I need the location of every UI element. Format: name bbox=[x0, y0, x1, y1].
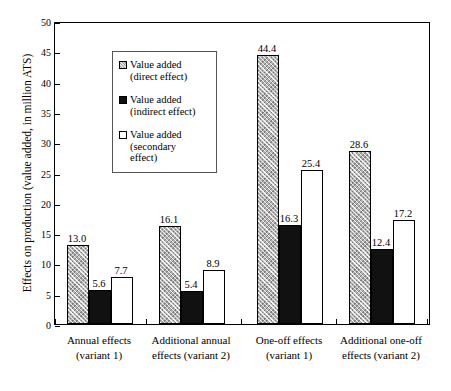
x-tick-mark bbox=[336, 319, 337, 324]
x-tick-mark bbox=[55, 319, 56, 324]
y-tick-label: 30 bbox=[29, 140, 51, 148]
y-tick-label: 10 bbox=[29, 261, 51, 269]
plot-area: 05101520253035404550 Value added(direct … bbox=[54, 22, 430, 325]
x-category-label-line: Additional one-off bbox=[340, 333, 422, 348]
bar-value-label: 16.1 bbox=[160, 214, 178, 225]
x-category-label: One-off effects(variant 1) bbox=[256, 333, 322, 363]
y-tick-mark bbox=[55, 84, 60, 85]
legend-label-line: Value added bbox=[130, 129, 182, 141]
y-tick-mark bbox=[55, 326, 60, 327]
x-category-label: Additional annualeffects (variant 2) bbox=[151, 333, 230, 363]
bar-value-label: 8.9 bbox=[206, 258, 219, 269]
bar-value-label: 7.7 bbox=[114, 265, 127, 276]
y-tick-mark bbox=[55, 205, 60, 206]
x-category-label: Annual effects(variant 1) bbox=[67, 333, 131, 363]
y-tick-mark bbox=[55, 23, 60, 24]
legend-label-line: (indirect effect) bbox=[130, 106, 195, 118]
bar bbox=[257, 55, 279, 324]
bar bbox=[111, 277, 133, 324]
legend-label-line: Value added bbox=[130, 94, 195, 106]
bar-value-label: 5.6 bbox=[92, 278, 105, 289]
bar bbox=[203, 270, 225, 324]
x-category-label-line: effects (variant 2) bbox=[151, 348, 230, 363]
x-category-label-line: One-off effects bbox=[256, 333, 322, 348]
bar-value-label: 5.4 bbox=[184, 279, 197, 290]
bar bbox=[159, 226, 181, 324]
legend-item[interactable]: Value added(indirect effect) bbox=[119, 94, 210, 117]
y-tick-label: 5 bbox=[29, 292, 51, 300]
legend-swatch-secondary bbox=[119, 131, 127, 139]
y-tick-label: 20 bbox=[29, 201, 51, 209]
bar bbox=[67, 245, 89, 324]
legend-label-line: (direct effect) bbox=[130, 71, 187, 83]
y-tick-label: 40 bbox=[29, 80, 51, 88]
bar-value-label: 17.2 bbox=[394, 208, 412, 219]
bar-value-label: 13.0 bbox=[68, 233, 86, 244]
x-category-label-line: Annual effects bbox=[67, 333, 131, 348]
bar bbox=[349, 151, 371, 324]
y-tick-mark bbox=[55, 265, 60, 266]
y-tick-mark bbox=[55, 53, 60, 54]
bar bbox=[371, 249, 393, 324]
x-category-label-line: (variant 1) bbox=[256, 348, 322, 363]
x-category-label: Additional one-offeffects (variant 2) bbox=[340, 333, 422, 363]
legend-swatch-direct bbox=[119, 61, 127, 69]
y-tick-mark bbox=[55, 296, 60, 297]
bar bbox=[301, 170, 323, 324]
x-tick-mark bbox=[241, 319, 242, 324]
y-tick-mark bbox=[55, 235, 60, 236]
x-tick-mark bbox=[427, 319, 428, 324]
legend-item-label: Value added(direct effect) bbox=[130, 59, 187, 82]
y-tick-mark bbox=[55, 114, 60, 115]
y-tick-label: 45 bbox=[29, 49, 51, 57]
y-tick-label: 50 bbox=[29, 19, 51, 27]
legend-item[interactable]: Value added(secondaryeffect) bbox=[119, 129, 210, 164]
legend-swatch-indirect bbox=[119, 96, 127, 104]
bar bbox=[393, 220, 415, 324]
bar-value-label: 25.4 bbox=[302, 158, 320, 169]
bar bbox=[279, 225, 301, 324]
bar-value-label: 44.4 bbox=[258, 43, 276, 54]
bar bbox=[89, 290, 111, 324]
bar-chart: Effects on production (value added, in m… bbox=[0, 0, 451, 391]
legend-item-label: Value added(indirect effect) bbox=[130, 94, 195, 117]
bar-value-label: 12.4 bbox=[372, 237, 390, 248]
chart-legend: Value added(direct effect)Value added(in… bbox=[112, 51, 217, 173]
y-tick-label: 15 bbox=[29, 231, 51, 239]
x-category-label-line: Additional annual bbox=[151, 333, 230, 348]
legend-label-line: Value added bbox=[130, 59, 187, 71]
x-category-label-line: effects (variant 2) bbox=[340, 348, 422, 363]
x-tick-mark bbox=[146, 319, 147, 324]
y-tick-label: 0 bbox=[29, 322, 51, 330]
y-tick-mark bbox=[55, 175, 60, 176]
legend-label-line: effect) bbox=[130, 152, 182, 164]
legend-item[interactable]: Value added(direct effect) bbox=[119, 59, 210, 82]
y-tick-mark bbox=[55, 144, 60, 145]
bar-value-label: 16.3 bbox=[280, 213, 298, 224]
y-tick-label: 35 bbox=[29, 110, 51, 118]
bar bbox=[181, 291, 203, 324]
y-tick-label: 25 bbox=[29, 171, 51, 179]
legend-label-line: (secondary bbox=[130, 141, 182, 153]
legend-item-label: Value added(secondaryeffect) bbox=[130, 129, 182, 164]
x-category-label-line: (variant 1) bbox=[67, 348, 131, 363]
bar-value-label: 28.6 bbox=[350, 139, 368, 150]
